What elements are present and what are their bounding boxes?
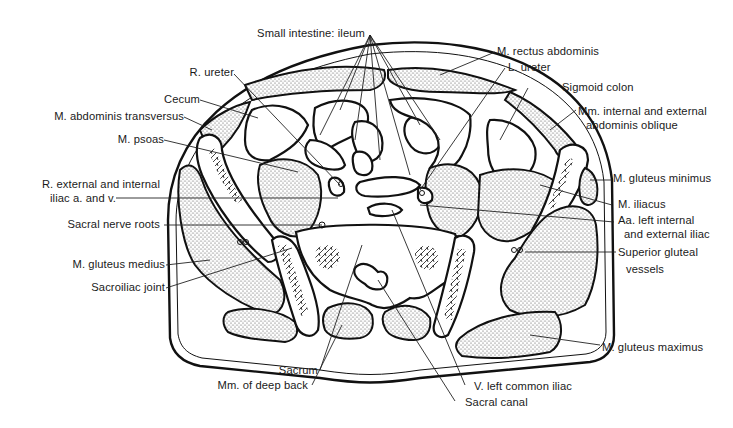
label-cecum: Cecum [100,93,200,106]
label-abdominis-transversus: M. abdominis transversus [20,110,184,123]
label-gluteus-minimus: M. gluteus minimus [613,172,711,185]
label-gluteus-maximus: M. gluteus maximus [602,341,703,354]
label-l-ureter: L. ureter [508,61,551,74]
label-superior-gluteal-line2: vessels [626,263,664,276]
gluteus-maximus-right [224,309,298,342]
label-left-iliac-arteries-line1: Aa. left internal [618,214,694,227]
label-r-iliac-vessels-line2: iliac a. and v. [10,192,116,205]
label-sacral-nerve-roots: Sacral nerve roots [20,218,160,231]
label-superior-gluteal-line1: Superior gluteal [618,246,698,259]
gluteus-maximus-left [456,312,561,358]
psoas-left [426,164,482,236]
label-left-iliac-arteries-line2: and external iliac [624,228,710,241]
label-iliacus: M. iliacus [618,198,666,211]
gluteus-minimus [579,168,597,205]
deep-back-muscles-left [383,306,431,340]
label-obliques-line2: abdominis oblique [586,119,678,132]
cecum [245,106,308,161]
label-deep-back-muscles: Mm. of deep back [190,379,308,392]
label-sacral-canal: Sacral canal [465,396,528,409]
label-sigmoid-colon: Sigmoid colon [562,81,634,94]
label-gluteus-medius: M. gluteus medius [20,258,165,271]
label-r-iliac-vessels-line1: R. external and internal [10,178,160,191]
label-small-intestine-ileum: Small intestine: ileum [220,27,365,40]
label-sacrum: Sacrum [230,364,318,377]
label-rectus-abdominis: M. rectus abdominis [497,45,599,58]
label-psoas: M. psoas [60,133,164,146]
rectus-abdominis [245,67,515,100]
label-sacroiliac-joint: Sacroiliac joint [20,281,165,294]
label-left-common-iliac-vein: V. left common iliac [474,380,572,393]
pelvis-cross-section-figure: R. ureter Cecum M. abdominis transversus… [0,0,733,428]
label-obliques-line1: Mm. internal and external [578,105,707,118]
label-r-ureter: R. ureter [110,66,234,79]
deep-back-muscles-right [323,303,373,338]
